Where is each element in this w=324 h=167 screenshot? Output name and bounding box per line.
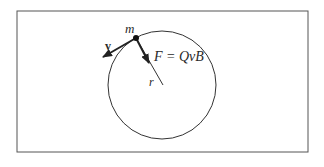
diagram-frame: [17, 11, 308, 152]
magnetic-force-diagram: m v F = QvB r: [0, 0, 324, 167]
mass-label: m: [125, 21, 134, 36]
velocity-label: v: [105, 39, 111, 53]
circular-orbit: [108, 31, 216, 139]
force-label: F = QvB: [153, 49, 204, 64]
radius-label: r: [149, 75, 154, 89]
force-arrow-icon: [136, 38, 149, 63]
